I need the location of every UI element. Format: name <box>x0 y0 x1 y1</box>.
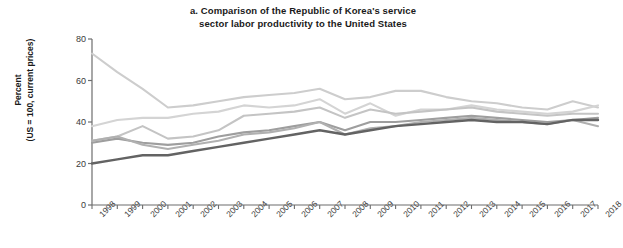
x-axis-tick-label: 2008 <box>350 212 357 219</box>
x-axis-tick-label: 2012 <box>451 212 458 219</box>
x-axis-tick-label: 2014 <box>502 212 509 219</box>
series-lines <box>92 39 598 205</box>
x-axis-tick-label: 2001 <box>173 212 180 219</box>
x-axis-tick-label: 2017 <box>578 212 585 219</box>
x-axis-tick-label: 2018 <box>603 212 610 219</box>
x-axis-tick-label: 2000 <box>148 212 155 219</box>
series-line <box>92 120 598 164</box>
x-axis-tick-label: 2003 <box>224 212 231 219</box>
axes <box>88 39 598 209</box>
series-line <box>92 54 598 110</box>
x-axis-tick-label: 2011 <box>426 212 433 219</box>
plot-area <box>92 39 598 205</box>
x-axis-tick-label: 2013 <box>477 212 484 219</box>
x-axis-tick-label: 2009 <box>375 212 382 219</box>
x-axis-tick-label: 2002 <box>198 212 205 219</box>
x-axis-tick-label: 2005 <box>274 212 281 219</box>
x-axis-tick-label: 2004 <box>249 212 256 219</box>
x-axis-tick-label: 2007 <box>325 212 332 219</box>
x-axis-tick-label: 2015 <box>527 212 534 219</box>
x-axis-tick-label: 1998 <box>97 212 104 219</box>
series-line <box>92 116 598 145</box>
x-axis-tick-label: 2010 <box>401 212 408 219</box>
x-axis-tick-label: 2016 <box>552 212 559 219</box>
x-axis-tick-label: 2006 <box>299 212 306 219</box>
x-axis-tick-label: 1999 <box>122 212 129 219</box>
